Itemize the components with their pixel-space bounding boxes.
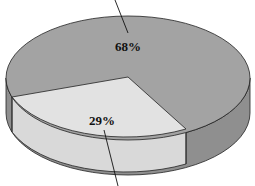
label-68: 68% [115, 39, 141, 54]
pie-chart: 68% 29% [0, 0, 255, 186]
label-29: 29% [89, 113, 115, 128]
